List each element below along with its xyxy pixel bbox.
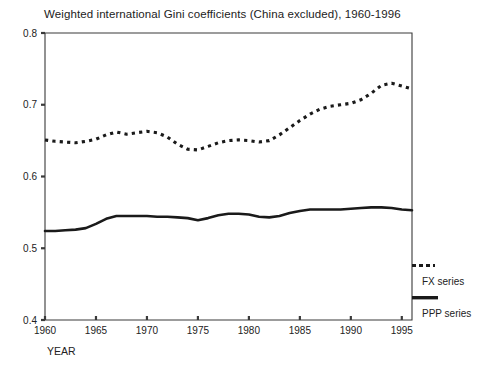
y-axis-ticks: 0.40.50.60.70.8 [23,28,45,326]
axes [45,33,412,320]
x-tick-label: 1960 [34,325,57,336]
x-tick-label: 1970 [136,325,159,336]
axis-frame [45,33,412,320]
series-line-fx-series [45,83,412,150]
chart-plot-area: 0.40.50.60.70.8 196019651970197519801985… [0,0,494,377]
x-axis-ticks: 19601965197019751980198519901995 [34,316,413,336]
chart-figure: Weighted international Gini coefficients… [0,0,494,377]
legend-label-ppp: PPP series [422,308,471,319]
y-tick-label: 0.6 [23,171,37,182]
legend-entry-ppp: PPP series [412,296,471,319]
data-series-group [45,83,412,231]
y-tick-label: 0.8 [23,28,37,39]
dotted-swatch-icon [412,264,435,267]
legend-label-fx: FX series [422,276,464,287]
y-tick-label: 0.5 [23,243,37,254]
x-tick-label: 1995 [391,325,414,336]
legend-entry-fx: FX series [412,264,464,287]
x-tick-label: 1985 [289,325,312,336]
x-axis-label: YEAR [47,345,76,357]
x-tick-label: 1990 [340,325,363,336]
y-tick-label: 0.7 [23,99,37,110]
x-tick-label: 1975 [187,325,210,336]
y-tick-label: 0.4 [23,315,37,326]
solid-swatch-icon [412,296,438,299]
chart-legend: FX series PPP series [412,264,471,319]
x-tick-label: 1980 [238,325,261,336]
series-line-ppp-series [45,207,412,231]
x-tick-label: 1965 [85,325,108,336]
